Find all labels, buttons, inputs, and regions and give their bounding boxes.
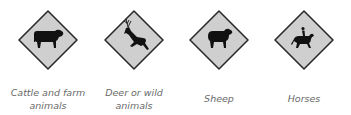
warning-diamond-icon xyxy=(261,0,347,80)
sign-label: Sheep xyxy=(176,92,262,105)
label-line-1: Horses xyxy=(261,92,347,105)
label-line-1: Sheep xyxy=(176,92,262,105)
warning-diamond-icon xyxy=(91,0,177,80)
sign-deer: Deer or wild animals xyxy=(91,0,177,115)
warning-diamond-icon xyxy=(5,0,91,80)
sign-sheep: Sheep xyxy=(176,0,262,115)
label-line-2: animals xyxy=(5,99,91,112)
sign-label: Cattle and farm animals xyxy=(5,86,91,112)
label-line-1: Deer or wild xyxy=(91,86,177,99)
label-line-2: animals xyxy=(91,99,177,112)
sign-cattle: Cattle and farm animals xyxy=(5,0,91,115)
sign-label: Deer or wild animals xyxy=(91,86,177,112)
sign-horses: Horses xyxy=(261,0,347,115)
sign-label: Horses xyxy=(261,92,347,105)
label-line-1: Cattle and farm xyxy=(5,86,91,99)
warning-diamond-icon xyxy=(176,0,262,80)
